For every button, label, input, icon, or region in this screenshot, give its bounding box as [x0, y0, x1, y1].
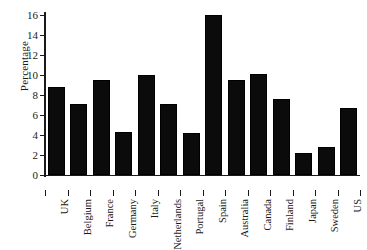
x-tick-label: Spain — [218, 199, 229, 223]
y-tick-label: 6 — [33, 110, 39, 121]
y-tick-label: 8 — [33, 90, 39, 101]
bar — [340, 108, 357, 175]
bar — [138, 75, 155, 175]
y-tick-mark — [40, 35, 45, 36]
bar — [93, 80, 110, 175]
bar-chart-figure: Percentage 0246810121416 UKBelgiumFrance… — [0, 0, 367, 250]
x-tick-mark — [338, 190, 339, 196]
x-tick-label: Sweden — [330, 199, 341, 232]
x-tick-label: France — [105, 199, 116, 228]
bar — [160, 104, 177, 175]
y-tick-mark — [40, 135, 45, 136]
x-tick-mark — [180, 190, 181, 196]
x-tick-mark — [135, 190, 136, 196]
bar — [273, 99, 290, 175]
x-tick-mark — [225, 190, 226, 196]
x-tick-label: Finland — [285, 199, 296, 231]
bar — [48, 87, 65, 175]
bar — [205, 15, 222, 175]
y-tick-mark — [40, 115, 45, 116]
y-tick-label: 12 — [27, 50, 38, 61]
y-tick-mark — [40, 155, 45, 156]
x-tick-label: UK — [60, 199, 71, 214]
bar — [115, 132, 132, 175]
y-tick-label: 14 — [27, 30, 38, 41]
y-tick-label: 10 — [27, 70, 38, 81]
x-tick-label: Australia — [240, 199, 251, 238]
x-tick-mark — [90, 190, 91, 196]
y-tick-label: 16 — [27, 10, 38, 21]
y-tick-mark — [40, 175, 45, 176]
bar — [70, 104, 87, 175]
x-tick-mark — [270, 190, 271, 196]
x-tick-label: US — [353, 199, 364, 212]
x-tick-mark — [113, 190, 114, 196]
y-tick-label: 4 — [33, 130, 39, 141]
bar — [318, 147, 335, 175]
x-tick-label: Japan — [308, 199, 319, 223]
y-tick-mark — [40, 55, 45, 56]
y-tick-mark — [40, 95, 45, 96]
bar — [295, 153, 312, 175]
x-tick-mark — [68, 190, 69, 196]
x-tick-mark — [203, 190, 204, 196]
y-axis-title: Percentage — [18, 6, 30, 126]
x-tick-mark — [45, 190, 46, 196]
x-tick-label: Italy — [150, 199, 161, 218]
x-tick-label: Belgium — [83, 199, 94, 235]
bar — [228, 80, 245, 175]
x-tick-mark — [248, 190, 249, 196]
x-tick-label: Portugal — [195, 199, 206, 235]
y-tick-mark — [40, 15, 45, 16]
x-tick-mark — [293, 190, 294, 196]
x-tick-mark — [315, 190, 316, 196]
x-tick-mark — [360, 190, 361, 196]
x-tick-label: Netherlands — [173, 199, 184, 250]
bar — [250, 74, 267, 175]
y-tick-mark — [40, 75, 45, 76]
x-tick-label: Canada — [263, 199, 274, 231]
y-tick-label: 0 — [33, 170, 39, 181]
x-tick-mark — [158, 190, 159, 196]
plot-area: 0246810121416 UKBelgiumFranceGermanyItal… — [45, 15, 360, 175]
x-tick-label: Germany — [128, 199, 139, 238]
bar — [183, 133, 200, 175]
y-tick-label: 2 — [33, 150, 39, 161]
